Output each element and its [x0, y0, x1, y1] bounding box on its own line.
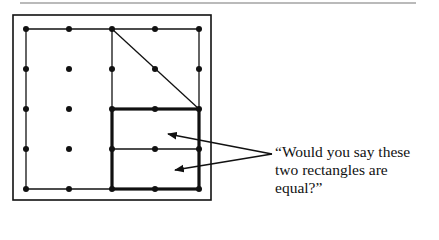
peg-dot	[196, 26, 202, 32]
peg-dot	[152, 26, 158, 32]
question-caption: “Would you say these two rectangles are …	[275, 143, 435, 197]
peg-dot	[23, 186, 29, 192]
peg-dot	[23, 66, 29, 72]
peg-dot	[109, 106, 115, 112]
peg-dot	[109, 146, 115, 152]
pointer-arrows	[168, 134, 272, 170]
peg-dot	[109, 66, 115, 72]
arrow-icon	[175, 154, 272, 170]
peg-dot	[23, 26, 29, 32]
peg-dot	[152, 66, 158, 72]
peg-dot	[66, 146, 72, 152]
peg-dot	[152, 186, 158, 192]
peg-dot	[23, 146, 29, 152]
peg-dot	[109, 186, 115, 192]
arrow-icon	[168, 134, 272, 154]
peg-dot	[196, 106, 202, 112]
peg-dot	[196, 146, 202, 152]
peg-dot	[196, 186, 202, 192]
peg-dot	[196, 66, 202, 72]
peg-dot	[66, 66, 72, 72]
peg-dot	[23, 106, 29, 112]
peg-dot	[109, 26, 115, 32]
peg-dot	[152, 106, 158, 112]
peg-dot	[152, 146, 158, 152]
peg-dot	[66, 106, 72, 112]
peg-dot	[66, 186, 72, 192]
peg-dot	[66, 26, 72, 32]
